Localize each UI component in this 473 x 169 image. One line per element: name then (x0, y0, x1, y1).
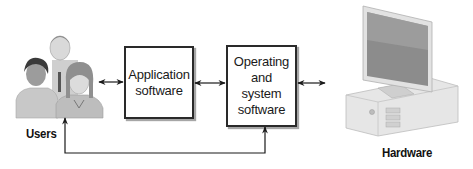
hardware-label: Hardware (382, 145, 432, 160)
application-software-label: Application software (128, 67, 189, 99)
diagram-canvas: Application software Operating and syste… (0, 0, 473, 169)
os-software-label: Operating and system software (234, 54, 289, 118)
os-software-box: Operating and system software (226, 45, 297, 127)
users-label: Users (26, 126, 56, 141)
application-software-box: Application software (124, 46, 194, 119)
users-illustration-icon (16, 36, 103, 118)
computer-illustration-icon (346, 6, 458, 136)
